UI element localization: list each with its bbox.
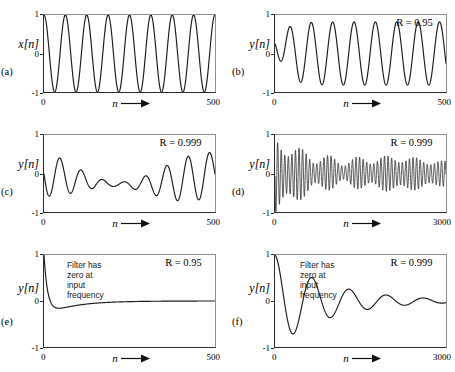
y-tick-d-2: -1 (252, 209, 270, 218)
y-tickmark-b-1 (271, 54, 274, 55)
x-tick-f-min: 0 (272, 353, 277, 362)
y-tickmark-c-2 (40, 213, 43, 214)
y-tickmark-d-1 (271, 174, 274, 175)
x-tick-a-min: 0 (41, 98, 46, 107)
y-tickmark-e-1 (40, 301, 43, 302)
y-tick-d-1: 0 (252, 170, 270, 179)
y-tickmark-a-1 (40, 54, 43, 55)
y-tick-c-0: 1 (21, 130, 39, 139)
right-arrow-icon (121, 219, 151, 228)
y-tickmark-a-0 (40, 14, 43, 15)
right-arrow-icon (121, 99, 151, 108)
panel-letter-c: (c) (1, 186, 13, 197)
panel-letter-f: (f) (232, 316, 243, 327)
x-tick-b-min: 0 (272, 98, 277, 107)
right-arrow-icon (352, 354, 382, 363)
x-axis-label-e: n (112, 353, 151, 364)
x-axis-label-c: n (112, 218, 151, 229)
y-tickmark-d-0 (271, 134, 274, 135)
x-axis-label-f: n (343, 353, 382, 364)
x-axis-label-text-a: n (112, 98, 118, 109)
x-tick-b-max: 500 (431, 98, 451, 107)
x-axis-label-text-f: n (343, 353, 349, 364)
x-axis-label-a: n (112, 98, 151, 109)
figure-panel-grid: 10-10500x[n](a)n10-10500y[n](b)nR = 0.95… (0, 0, 455, 372)
y-axis-label-f: y[n] (230, 282, 270, 294)
y-tick-e-0: 1 (21, 250, 39, 259)
y-tick-b-1: 0 (252, 50, 270, 59)
y-axis-label-b: y[n] (230, 38, 270, 50)
panel-letter-a: (a) (1, 66, 13, 77)
y-tickmark-f-2 (271, 348, 274, 349)
y-tickmark-b-0 (271, 14, 274, 15)
panel-letter-d: (d) (232, 186, 244, 197)
annotation-f: Filter has zero at input frequency (300, 260, 337, 300)
x-axis-label-text-b: n (343, 98, 349, 109)
y-tickmark-a-2 (40, 93, 43, 94)
x-axis-label-text-c: n (112, 218, 118, 229)
x-tick-a-max: 500 (200, 98, 220, 107)
x-tick-f-max: 3000 (431, 353, 451, 362)
y-axis-label-a: x[n] (0, 38, 39, 50)
y-tickmark-f-0 (271, 254, 274, 255)
curve-a (44, 15, 215, 92)
y-tickmark-b-2 (271, 93, 274, 94)
y-tick-a-2: -1 (21, 89, 39, 98)
plot-area-a (43, 14, 216, 93)
y-axis-label-d: y[n] (230, 158, 270, 170)
x-axis-label-d: n (343, 218, 382, 229)
right-arrow-icon (352, 99, 382, 108)
r-parameter-label-f: R = 0.999 (391, 257, 433, 268)
y-tick-f-2: -1 (252, 344, 270, 353)
annotation-e: Filter has zero at input frequency (67, 260, 104, 300)
y-tick-c-1: 0 (21, 170, 39, 179)
y-tick-b-0: 1 (252, 10, 270, 19)
r-parameter-label-e: R = 0.95 (165, 257, 202, 268)
y-tick-a-1: 0 (21, 50, 39, 59)
y-tickmark-f-1 (271, 301, 274, 302)
y-tick-e-1: 0 (21, 297, 39, 306)
y-axis-label-c: y[n] (0, 158, 39, 170)
r-parameter-label-d: R = 0.999 (391, 137, 433, 148)
x-axis-label-text-d: n (343, 218, 349, 229)
x-tick-c-min: 0 (41, 218, 46, 227)
y-tick-f-1: 0 (252, 297, 270, 306)
x-axis-label-text-e: n (112, 353, 118, 364)
y-tick-c-2: -1 (21, 209, 39, 218)
y-tickmark-c-0 (40, 134, 43, 135)
x-axis-label-b: n (343, 98, 382, 109)
r-parameter-label-c: R = 0.999 (160, 137, 202, 148)
panel-letter-e: (e) (1, 316, 13, 327)
x-tick-e-min: 0 (41, 353, 46, 362)
y-tickmark-e-2 (40, 348, 43, 349)
y-tick-e-2: -1 (21, 344, 39, 353)
y-tick-a-0: 1 (21, 10, 39, 19)
panel-letter-b: (b) (232, 66, 244, 77)
y-tick-f-0: 1 (252, 250, 270, 259)
x-tick-d-max: 3000 (431, 218, 451, 227)
x-tick-e-max: 500 (200, 353, 220, 362)
y-axis-label-e: y[n] (0, 282, 39, 294)
right-arrow-icon (352, 219, 382, 228)
x-tick-c-max: 500 (200, 218, 220, 227)
r-parameter-label-b: R = 0.95 (396, 17, 433, 28)
y-tickmark-d-2 (271, 213, 274, 214)
x-tick-d-min: 0 (272, 218, 277, 227)
y-tickmark-e-0 (40, 254, 43, 255)
y-tick-d-0: 1 (252, 130, 270, 139)
y-tickmark-c-1 (40, 174, 43, 175)
right-arrow-icon (121, 354, 151, 363)
y-tick-b-2: -1 (252, 89, 270, 98)
